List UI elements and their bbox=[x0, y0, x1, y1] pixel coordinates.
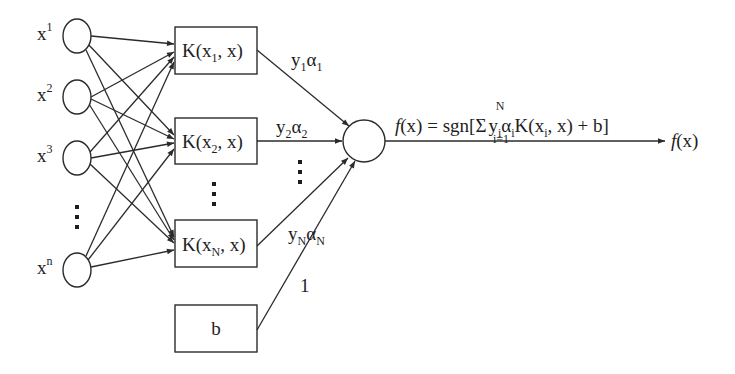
formula-sum-lower: i=1 bbox=[493, 132, 509, 146]
input-labels: x1 x2 x3 xn bbox=[37, 20, 53, 278]
input-nodes bbox=[63, 19, 91, 287]
weight-ellipsis bbox=[298, 160, 302, 184]
input-node-x1 bbox=[63, 19, 91, 53]
weight-label-1: y1α1 bbox=[291, 49, 322, 74]
input-node-x3 bbox=[63, 141, 91, 175]
bias-label: b bbox=[211, 318, 221, 339]
input-node-xn bbox=[63, 253, 91, 287]
edge-xn-k1 bbox=[86, 62, 174, 256]
kernel-ellipsis bbox=[212, 182, 216, 206]
kernel-boxes: K(x1, x) K(x2, x) K(xN, x) bbox=[175, 27, 257, 267]
input-ellipsis bbox=[75, 205, 79, 229]
input-to-kernel-edges bbox=[86, 36, 174, 267]
output-label: f(x) bbox=[671, 130, 698, 152]
edge-xn-k2 bbox=[88, 149, 174, 260]
edge-xn-kN bbox=[91, 250, 174, 267]
input-label-xn: xn bbox=[37, 254, 53, 278]
edge-x1-kN bbox=[86, 50, 174, 237]
edge-x1-k1 bbox=[91, 36, 174, 44]
output-node bbox=[343, 120, 385, 162]
formula-sum-upper: N bbox=[496, 99, 505, 113]
input-label-x3: x3 bbox=[37, 142, 53, 166]
bias-weight-label: 1 bbox=[300, 275, 310, 296]
input-label-x1: x1 bbox=[37, 20, 53, 44]
edge-kN-out bbox=[257, 158, 348, 246]
edge-x2-k2 bbox=[91, 99, 174, 139]
input-label-x2: x2 bbox=[37, 81, 53, 105]
edge-x3-k2 bbox=[91, 143, 174, 158]
weight-label-2: y2α2 bbox=[276, 116, 307, 141]
svm-diagram: x1 x2 x3 xn K(x1, x) K(x2, x) K(xN, x) b… bbox=[0, 0, 735, 374]
decision-function-formula: f(x) = sgn[ΣyiαiK(xi, x) + b] N i=1 bbox=[395, 99, 609, 146]
input-node-x2 bbox=[63, 80, 91, 114]
edge-x2-kN bbox=[89, 104, 174, 240]
